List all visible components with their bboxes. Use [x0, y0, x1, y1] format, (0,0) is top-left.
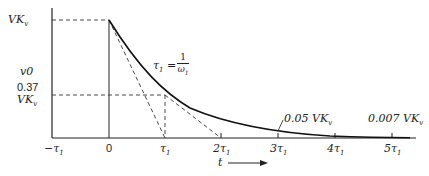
- decay-curve: [109, 20, 410, 138]
- x-tick-3tau: 3τ1: [270, 143, 288, 159]
- tau-formula: τ1 =: [153, 60, 176, 76]
- x-tick-0: 0: [106, 143, 112, 154]
- guide-lines: [52, 20, 221, 138]
- y-axis-label: v0: [20, 66, 33, 77]
- annotation-leader: [278, 120, 283, 131]
- y-label-vkv: VKv: [8, 14, 28, 30]
- y-label-037-vkv: VKv: [17, 94, 37, 110]
- x-axis-label: t: [218, 157, 222, 168]
- x-tick-tau: τ1: [160, 143, 171, 159]
- x-tick-5tau: 5τ1: [384, 143, 402, 159]
- annotation-005: 0.05 VKv: [284, 113, 332, 129]
- formula-fraction: 1 ω1: [177, 52, 189, 78]
- t-arrow-head: [260, 160, 268, 166]
- annotation-0007: 0.007 VKv: [368, 113, 423, 129]
- y-label-037: 0.37: [17, 82, 38, 93]
- x-tick-neg-tau: −τ1: [44, 143, 64, 159]
- x-tick-4tau: 4τ1: [327, 143, 345, 159]
